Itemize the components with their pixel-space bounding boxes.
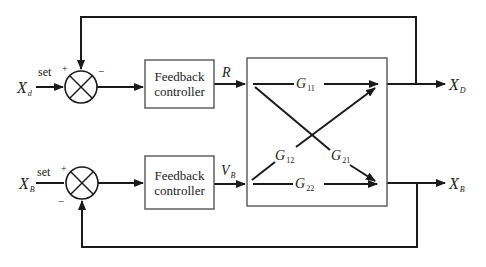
controller-bottom-text: Feedbackcontroller [145, 156, 214, 209]
g11-label: G11 [296, 77, 315, 93]
minus-sign-bottom: − [58, 196, 64, 207]
g22-label: G22 [295, 177, 314, 193]
controller-top-text: Feedbackcontroller [145, 60, 214, 108]
r-label: R [222, 66, 231, 80]
output-xb-label: XB [449, 176, 465, 194]
diagram-lines [0, 0, 486, 267]
output-xd-label: XD [449, 77, 466, 95]
controller-bottom-line1: Feedback [154, 168, 205, 183]
input-xd-label: Xd [17, 80, 32, 98]
controller-top-line1: Feedback [154, 69, 205, 84]
set-label-bottom: set [37, 166, 50, 178]
vb-label: VB [221, 164, 235, 180]
g21-label: G21 [331, 149, 350, 165]
feedback-bottom [82, 183, 417, 247]
plus-sign-top: + [62, 64, 68, 74]
controller-bottom-line2: controller [154, 183, 205, 198]
minus-sign-top: − [98, 66, 104, 77]
feedback-top [81, 17, 416, 84]
plus-sign-bottom: + [61, 164, 67, 174]
input-xb-label: XB [19, 176, 35, 194]
block-diagram: Xd set + − XB set + − Feedbackcontroller… [0, 0, 486, 267]
g12-label: G12 [275, 149, 294, 165]
controller-top-line2: controller [154, 84, 205, 99]
set-label-top: set [38, 66, 51, 78]
